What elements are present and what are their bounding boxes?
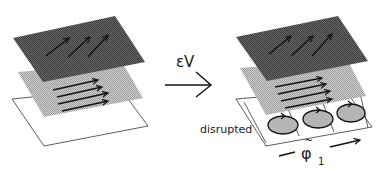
panel-before bbox=[12, 16, 148, 146]
circulation-cell-1 bbox=[268, 116, 298, 134]
transform-label: εV bbox=[176, 53, 195, 71]
panel-after: disrupted ~ φ 1 bbox=[200, 16, 372, 167]
phi-label: φ bbox=[301, 144, 312, 163]
transform-arrow: εV bbox=[165, 53, 211, 97]
disrupted-label: disrupted bbox=[200, 123, 252, 136]
layered-flow-diagram: εV bbox=[0, 0, 386, 171]
circulation-cell-3 bbox=[337, 104, 365, 122]
circulation-cell-2 bbox=[303, 110, 333, 128]
phi-subscript: 1 bbox=[318, 156, 324, 167]
